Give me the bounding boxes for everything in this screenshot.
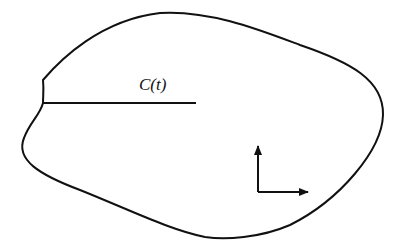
closed-boundary-curve bbox=[22, 13, 383, 239]
coordinate-axes bbox=[258, 146, 308, 192]
crack-label: C(t) bbox=[139, 76, 166, 93]
diagram-canvas bbox=[0, 0, 402, 249]
